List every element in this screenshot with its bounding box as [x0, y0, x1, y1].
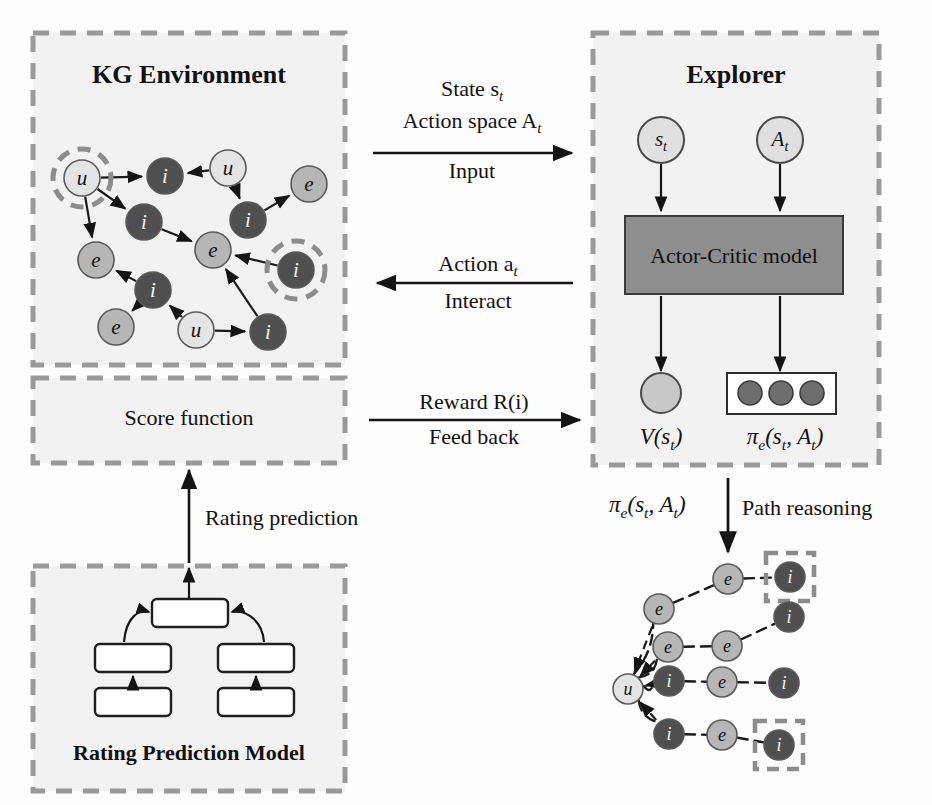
action-space-node-label: At [772, 127, 789, 155]
pathpolicy-args-close: ) [678, 492, 686, 517]
path-reasoning-policy-label: πe(st, At) [609, 492, 686, 522]
pathpolicy-args-open: (s [627, 492, 644, 517]
figure-canvas: uiueiieeiieui [0, 0, 932, 805]
explorer-title: Explorer [686, 60, 785, 90]
action-space-text: Action space A [403, 108, 537, 133]
graph-node-label: i [786, 607, 791, 627]
graph-node-label: e [718, 725, 726, 745]
path-edge [674, 585, 714, 602]
connector-feedback-label: Feed back [429, 424, 519, 450]
path-edge [741, 624, 774, 639]
action-space-subscript: t [784, 138, 788, 154]
connector-action-label: Action at [438, 251, 517, 280]
value-head-paren: ) [675, 424, 683, 449]
graph-node-label: i [666, 671, 671, 691]
pathpolicy-args-mid: , A [648, 492, 673, 517]
action-space-symbol: A [772, 127, 785, 151]
graph-node-label: i [666, 724, 671, 744]
graph-node-label: i [787, 567, 792, 587]
connector-reward-label: Reward R(i) [419, 389, 528, 415]
action-text-subscript: t [514, 263, 518, 279]
graph-node-label: e [723, 636, 731, 656]
rating-prediction-model-title: Rating Prediction Model [73, 740, 305, 766]
policy-args-open: (s [765, 424, 782, 449]
graph-node-label: u [624, 679, 633, 699]
connector-interact-label: Interact [444, 288, 511, 314]
graph-node-label: e [664, 637, 672, 657]
pathpolicy-pi-symbol: π [609, 492, 621, 517]
state-text-subscript: t [499, 88, 503, 104]
kg-environment-title: KG Environment [92, 60, 286, 90]
value-head-label: V(st) [640, 424, 683, 454]
state-node-label: st [655, 127, 667, 155]
value-head-symbol: V(s [640, 424, 671, 449]
state-text: State s [441, 76, 499, 101]
graph-node-label: i [781, 673, 786, 693]
path-reasoning-label: Path reasoning [742, 495, 872, 521]
state-symbol: s [655, 127, 663, 151]
graph-node-label: e [718, 672, 726, 692]
actor-critic-model-label: Actor-Critic model [650, 243, 818, 269]
connector-state-label: State st [441, 76, 503, 105]
graph-node-label: e [724, 569, 732, 589]
connector-input-label: Input [449, 158, 495, 184]
path-edge-to-user [646, 685, 651, 686]
score-function-label: Score function [125, 405, 254, 431]
connector-action-space-label: Action space At [403, 108, 542, 137]
graph-node-label: i [776, 735, 781, 755]
policy-pi-symbol: π [747, 424, 759, 449]
action-space-text-subscript: t [537, 120, 541, 136]
path-edge [738, 738, 763, 742]
path-edge [744, 578, 774, 579]
policy-args-mid: , A [786, 424, 811, 449]
state-subscript: t [663, 138, 667, 154]
policy-args-close: ) [816, 424, 824, 449]
graph-node-label: e [655, 599, 663, 619]
connector-rating-prediction-label: Rating prediction [205, 505, 358, 531]
action-text: Action a [438, 251, 513, 276]
policy-head-label: πe(st, At) [747, 424, 824, 454]
